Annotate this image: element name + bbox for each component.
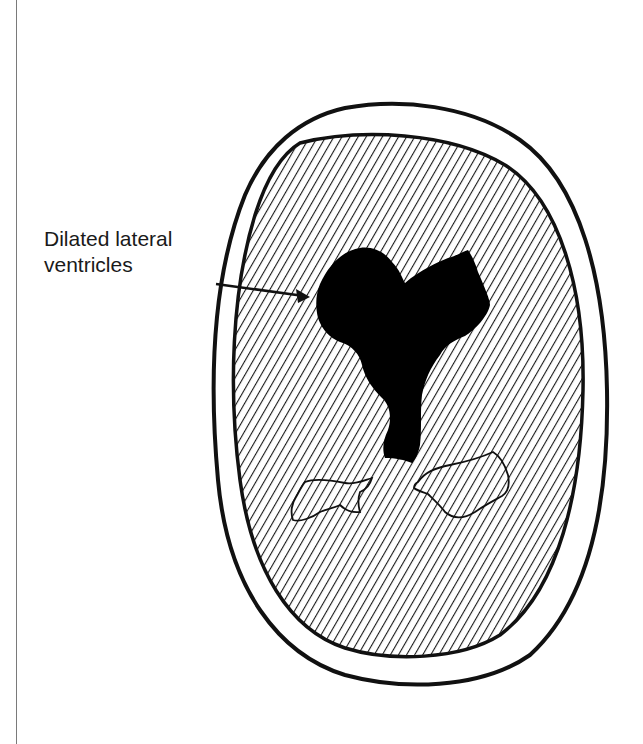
skull-cross-section-diagram xyxy=(0,0,643,744)
ventricle-label-line1: Dilated lateral xyxy=(44,225,172,253)
ventricle-label-line2: ventricles xyxy=(44,251,133,279)
